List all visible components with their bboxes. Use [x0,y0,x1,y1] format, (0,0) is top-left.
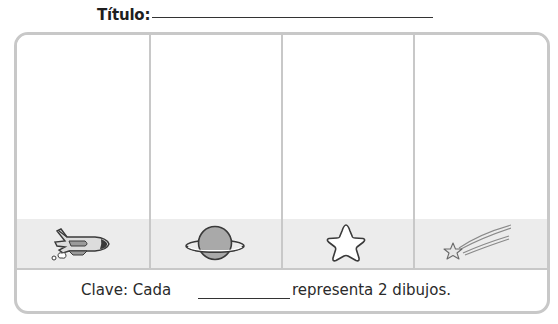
column-shooting-star[interactable] [415,35,547,268]
title-label: Título: [97,6,150,24]
column-plot-area[interactable] [283,35,413,219]
title-row: Título: [97,2,150,24]
key-suffix: representa 2 dibujos. [292,281,451,299]
column-shuttle[interactable] [17,35,149,268]
shooting-star-icon [441,222,511,262]
pictograph-grid [17,35,547,268]
column-label-band [17,219,149,268]
star-icon [324,222,368,266]
planet-icon [183,222,247,266]
column-planet[interactable] [151,35,281,268]
column-plot-area[interactable] [415,35,547,219]
column-label-band [151,219,281,268]
title-blank-line[interactable] [152,17,433,18]
pictograph-frame: Clave: Cada representa 2 dibujos. [14,32,550,314]
space-shuttle-icon [45,223,111,265]
column-plot-area[interactable] [151,35,281,219]
column-label-band [415,219,547,268]
column-label-band [283,219,413,268]
key-symbol-blank[interactable] [198,298,290,299]
key-row: Clave: Cada representa 2 dibujos. [17,270,547,311]
column-plot-area[interactable] [17,35,149,219]
column-star[interactable] [283,35,413,268]
key-prefix: Clave: Cada [81,281,171,299]
